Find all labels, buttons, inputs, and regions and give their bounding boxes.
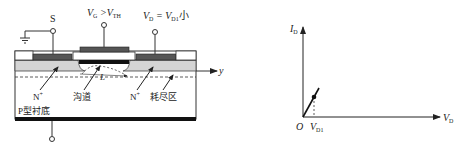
gate-oxide <box>73 52 135 60</box>
gate-voltage-label: VG >VTH <box>87 7 121 19</box>
p-substrate-label: P型衬底 <box>18 105 50 116</box>
channel-length-label: L <box>99 72 105 82</box>
gate-terminal <box>102 23 107 28</box>
source-label: S <box>50 13 56 24</box>
substrate-contact <box>15 117 196 121</box>
drain-voltage-label: VD = VD1小 <box>143 10 189 22</box>
origin-label: O <box>296 121 303 132</box>
substrate-terminal <box>50 137 55 142</box>
channel-label: 沟道 <box>73 91 91 102</box>
x-axis-label: VD <box>443 112 454 124</box>
drain-terminal <box>153 30 158 35</box>
n-plus-source-region <box>15 60 85 71</box>
n-plus-drain-region <box>123 60 196 71</box>
iv-curve <box>303 88 319 117</box>
y-axis-label: y <box>218 65 224 76</box>
field-oxide-left <box>15 51 33 60</box>
iv-graph: ID VD O VD1 <box>289 23 454 133</box>
figure-canvas: S VG >VTH VD = VD1小 L y N+ 沟道 N+ 耗尽区 P型衬… <box>0 0 462 148</box>
drain-contact <box>136 54 176 60</box>
mosfet-diagram: S VG >VTH VD = VD1小 L y N+ 沟道 N+ 耗尽区 P型衬… <box>15 7 224 142</box>
vd1-tick-label: VD1 <box>310 121 323 133</box>
source-terminal <box>51 29 56 34</box>
source-contact <box>33 54 72 60</box>
y-axis-label: ID <box>289 23 298 35</box>
field-oxide-right <box>176 51 196 60</box>
channel <box>79 60 129 64</box>
depletion-region-label: 耗尽区 <box>150 92 177 102</box>
gate-electrode <box>80 47 129 52</box>
operating-point <box>312 95 317 100</box>
